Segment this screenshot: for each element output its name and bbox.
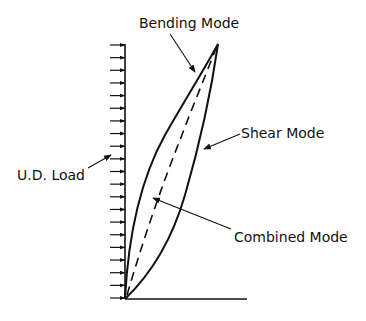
shear-mode-label: Shear Mode [241,125,324,141]
bending-leader-arrow [170,34,195,72]
combined-leader-arrow [153,198,231,229]
deformation-modes-diagram: Bending Mode Shear Mode Combined Mode U.… [0,0,366,321]
combined-mode-curve [127,48,216,295]
uniform-distributed-load [110,44,125,299]
bending-mode-label: Bending Mode [139,15,239,31]
load-leader-arrow [88,155,111,168]
load-label: U.D. Load [17,167,85,183]
bending-mode-curve [125,44,218,299]
shear-mode-curve [125,44,218,299]
combined-mode-label: Combined Mode [234,229,348,245]
shear-leader-arrow [204,134,240,149]
